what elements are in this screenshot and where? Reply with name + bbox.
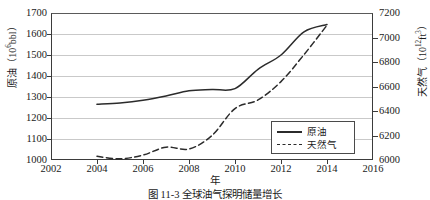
legend-label: 天然气 — [307, 140, 337, 150]
figure-container: 原油（106bbl） 天然气（1012ft3） 1700160015001400… — [0, 0, 430, 200]
x-axis-title: 年 — [0, 175, 430, 186]
figure-caption: 图 11-3 全球油气探明储量增长 — [0, 189, 430, 200]
legend: 原油 天然气 — [271, 121, 355, 154]
solid-line-icon — [277, 128, 302, 136]
legend-item-natural-gas: 天然气 — [277, 138, 350, 151]
dashed-line-icon — [277, 141, 302, 149]
series-line-crude-oil — [97, 25, 327, 105]
data-series-layer — [0, 0, 430, 200]
legend-item-crude-oil: 原油 — [277, 125, 350, 138]
legend-label: 原油 — [307, 127, 327, 137]
